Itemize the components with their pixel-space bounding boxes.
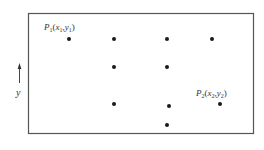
y-axis-arrow-icon	[18, 63, 22, 83]
point-pt-10	[165, 123, 169, 127]
point-pt-5	[112, 65, 116, 69]
point-p1	[67, 37, 71, 41]
points-layer	[67, 37, 222, 127]
point-pt-2	[112, 37, 116, 41]
diagram-canvas: y P1(x1,y1) P2(x2,y2)	[0, 0, 264, 150]
p1-label: P1(x1,y1)	[43, 22, 75, 33]
point-pt-4	[210, 37, 214, 41]
point-pt-8	[167, 104, 171, 108]
point-p2	[218, 102, 222, 106]
point-pt-7	[112, 102, 116, 106]
y-axis-label: y	[15, 87, 21, 98]
point-pt-3	[165, 37, 169, 41]
point-pt-6	[165, 65, 169, 69]
p2-label: P2(x2,y2)	[195, 88, 227, 99]
